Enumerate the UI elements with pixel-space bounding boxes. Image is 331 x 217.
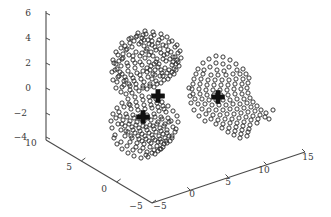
data-point bbox=[201, 61, 205, 65]
data-point bbox=[242, 106, 246, 110]
data-point bbox=[203, 119, 207, 123]
data-point bbox=[196, 67, 200, 71]
data-point bbox=[216, 118, 220, 122]
data-point bbox=[128, 103, 132, 107]
data-point bbox=[140, 94, 144, 98]
data-point bbox=[215, 68, 219, 72]
data-point bbox=[123, 134, 127, 138]
data-point bbox=[244, 115, 248, 119]
data-point bbox=[237, 116, 241, 120]
data-point bbox=[179, 56, 183, 60]
y-tick-mark bbox=[117, 179, 121, 182]
cluster-2-points bbox=[109, 94, 180, 160]
x-tick-label: 5 bbox=[225, 177, 231, 187]
data-point bbox=[124, 92, 128, 96]
data-point bbox=[209, 117, 213, 121]
data-point bbox=[221, 62, 225, 66]
data-point bbox=[211, 113, 215, 117]
data-point bbox=[150, 77, 154, 81]
y-tick-label: 5 bbox=[66, 162, 72, 172]
y-tick-label: 10 bbox=[25, 138, 37, 148]
data-point bbox=[197, 114, 201, 118]
data-point bbox=[192, 77, 196, 81]
z-tick-label: −2 bbox=[14, 108, 27, 118]
z-tick-mark bbox=[46, 113, 50, 115]
data-point bbox=[147, 95, 151, 99]
data-point bbox=[133, 66, 137, 70]
data-point bbox=[194, 72, 198, 76]
data-point bbox=[110, 126, 114, 130]
x-tick-label: 0 bbox=[189, 189, 195, 199]
data-point bbox=[220, 126, 224, 130]
data-point bbox=[207, 98, 211, 102]
data-point bbox=[120, 101, 124, 105]
data-point bbox=[267, 117, 271, 121]
data-point bbox=[226, 93, 230, 97]
data-point bbox=[189, 101, 193, 105]
data-point bbox=[242, 97, 246, 101]
data-point bbox=[233, 82, 237, 86]
cluster-3-points bbox=[187, 54, 275, 140]
data-point bbox=[235, 97, 239, 101]
data-point bbox=[139, 156, 143, 160]
data-point bbox=[148, 145, 152, 149]
data-point bbox=[214, 54, 218, 58]
data-point bbox=[205, 83, 209, 87]
data-point bbox=[131, 148, 135, 152]
data-point bbox=[135, 104, 139, 108]
data-point bbox=[115, 80, 119, 84]
data-point bbox=[228, 121, 232, 125]
cluster-1-centroid bbox=[152, 90, 165, 103]
data-point bbox=[109, 119, 113, 123]
data-point bbox=[175, 114, 179, 118]
data-point bbox=[119, 140, 123, 144]
data-point bbox=[114, 116, 118, 120]
data-point bbox=[255, 121, 259, 125]
data-point bbox=[197, 87, 201, 91]
data-point bbox=[221, 108, 225, 112]
data-point bbox=[225, 88, 229, 92]
data-point bbox=[200, 97, 204, 101]
data-point bbox=[133, 95, 137, 99]
data-point bbox=[207, 57, 211, 61]
plot-canvas: 6420−2−4 1050−5 −5051015 bbox=[0, 0, 331, 217]
data-point bbox=[200, 107, 204, 111]
data-point bbox=[205, 93, 209, 97]
data-point bbox=[245, 101, 249, 105]
data-point bbox=[165, 35, 169, 39]
data-point bbox=[232, 87, 236, 91]
data-point bbox=[235, 107, 239, 111]
data-point bbox=[239, 111, 243, 115]
data-point bbox=[147, 60, 151, 64]
z-tick-label: 6 bbox=[25, 8, 31, 18]
data-point bbox=[163, 66, 167, 70]
data-point bbox=[125, 144, 129, 148]
data-point bbox=[198, 92, 202, 96]
data-point bbox=[214, 61, 218, 65]
data-point bbox=[214, 122, 218, 126]
z-tick-mark bbox=[46, 63, 50, 65]
data-point bbox=[224, 73, 228, 77]
data-point bbox=[126, 69, 130, 73]
data-point bbox=[226, 130, 230, 134]
x-axis-ticks: −5051015 bbox=[153, 149, 314, 211]
data-point bbox=[211, 88, 215, 92]
data-point bbox=[111, 112, 115, 116]
data-point bbox=[210, 103, 214, 107]
data-point bbox=[204, 112, 208, 116]
data-point bbox=[119, 46, 123, 50]
data-point bbox=[139, 77, 143, 81]
z-tick-mark bbox=[46, 38, 50, 40]
data-point bbox=[226, 83, 230, 87]
data-point bbox=[245, 134, 249, 138]
data-point bbox=[120, 147, 124, 151]
data-point bbox=[208, 65, 212, 69]
data-point bbox=[255, 104, 259, 108]
data-point bbox=[251, 100, 255, 104]
z-tick-label: 2 bbox=[25, 58, 31, 68]
data-point bbox=[196, 102, 200, 106]
data-point bbox=[251, 114, 255, 118]
data-point bbox=[126, 97, 130, 101]
data-point bbox=[228, 98, 232, 102]
data-point bbox=[228, 58, 232, 62]
